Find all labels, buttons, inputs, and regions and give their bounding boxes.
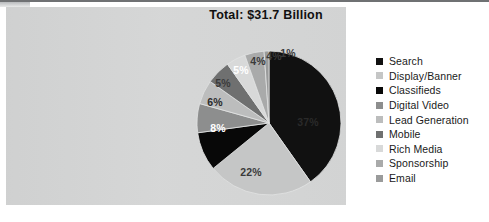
legend-item-label: Classifieds [389, 84, 441, 96]
legend-item: Lead Generation [376, 112, 488, 127]
pie-chart: 37%22%8%6%5%5%4%4%1% [196, 50, 342, 196]
legend-item-label: Sponsorship [389, 157, 448, 169]
legend-item: Email [376, 171, 488, 186]
legend-swatch-icon [376, 175, 383, 182]
legend-item: Rich Media [376, 142, 488, 157]
legend-item-label: Display/Banner [389, 70, 462, 82]
slice-percentage-label: 6% [207, 96, 222, 108]
chart-title: Total: $31.7 Billion [186, 8, 346, 22]
legend-swatch-icon [376, 87, 383, 94]
slice-percentage-label: 5% [215, 77, 230, 89]
page-top-rule [0, 0, 489, 2]
legend-item-label: Mobile [389, 128, 421, 140]
legend-item-label: Email [389, 172, 416, 184]
chart-legend: SearchDisplay/BannerClassifiedsDigital V… [376, 54, 488, 185]
slice-percentage-label: 37% [297, 116, 318, 128]
legend-item: Classifieds [376, 83, 488, 98]
legend-item: Mobile [376, 127, 488, 142]
slice-percentage-label: 5% [233, 64, 248, 76]
legend-swatch-icon [376, 58, 383, 65]
legend-item-label: Digital Video [389, 99, 449, 111]
legend-swatch-icon [376, 145, 383, 152]
legend-swatch-icon [376, 102, 383, 109]
legend-swatch-icon [376, 160, 383, 167]
slice-percentage-label: 4% [250, 55, 265, 67]
legend-swatch-icon [376, 116, 383, 123]
slice-percentage-label: 8% [210, 122, 225, 134]
legend-item: Search [376, 54, 488, 69]
legend-swatch-icon [376, 72, 383, 79]
legend-item: Sponsorship [376, 156, 488, 171]
legend-item: Digital Video [376, 98, 488, 113]
figure-container: Total: $31.7 Billion 37%22%8%6%5%5%4%4%1… [0, 0, 489, 222]
legend-item-label: Rich Media [389, 143, 443, 155]
legend-item: Display/Banner [376, 69, 488, 84]
slice-percentage-label: 22% [240, 166, 261, 178]
legend-item-label: Lead Generation [389, 114, 469, 126]
legend-item-label: Search [389, 55, 423, 67]
legend-swatch-icon [376, 131, 383, 138]
slice-percentage-label: 1% [280, 47, 295, 59]
